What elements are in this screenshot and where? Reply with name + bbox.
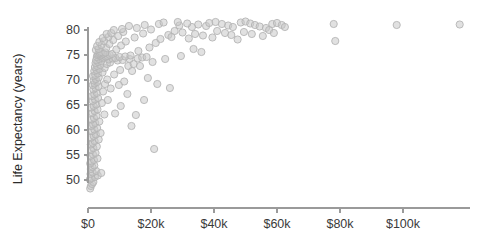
- data-point: [190, 45, 197, 52]
- data-point: [129, 67, 136, 74]
- data-point: [132, 111, 139, 118]
- data-point: [101, 111, 108, 118]
- data-point: [166, 84, 173, 91]
- data-point: [162, 55, 169, 62]
- data-point: [141, 21, 148, 28]
- y-axis-tick-label: 60: [66, 123, 80, 137]
- data-point: [104, 76, 111, 83]
- data-point: [157, 35, 164, 42]
- data-point: [140, 30, 147, 37]
- data-point: [174, 18, 181, 25]
- data-point: [259, 32, 266, 39]
- x-axis-tick-label: $60k: [263, 217, 291, 231]
- data-point: [151, 145, 158, 152]
- data-point: [240, 28, 247, 35]
- data-point: [184, 20, 191, 27]
- x-axis-tick-label: $40k: [200, 217, 228, 231]
- x-axis: $0$20k$40k$60k$80k$100k: [81, 208, 470, 231]
- data-point: [192, 30, 199, 37]
- data-point: [104, 96, 111, 103]
- data-point: [133, 24, 140, 31]
- data-point: [168, 33, 175, 40]
- data-point: [160, 19, 167, 26]
- data-point: [143, 53, 150, 60]
- data-point: [124, 90, 131, 97]
- data-point: [149, 58, 156, 65]
- data-point: [122, 38, 129, 45]
- data-point: [146, 44, 153, 51]
- data-point: [270, 29, 277, 36]
- data-point: [125, 22, 132, 29]
- data-point: [147, 26, 154, 33]
- y-axis-title: Life Expectancy (years): [11, 54, 25, 185]
- data-point: [131, 34, 138, 41]
- data-point: [117, 102, 124, 109]
- data-point: [456, 21, 463, 28]
- data-point: [111, 110, 118, 117]
- y-axis-tick-label: 75: [66, 48, 80, 62]
- data-point: [117, 66, 124, 73]
- data-point: [195, 21, 202, 28]
- data-point: [179, 29, 186, 36]
- data-point: [128, 122, 135, 129]
- y-axis-tick-label: 70: [66, 73, 80, 87]
- y-axis: 50556065707580: [66, 23, 88, 187]
- x-axis-tick-label: $0: [81, 217, 95, 231]
- data-point: [98, 169, 105, 176]
- data-point: [229, 23, 236, 30]
- y-axis-tick-label: 65: [66, 98, 80, 112]
- data-point: [136, 62, 143, 69]
- data-point: [185, 35, 192, 42]
- x-axis-tick-label: $80k: [326, 217, 354, 231]
- scatter-chart: 50556065707580 $0$20k$40k$60k$80k$100k L…: [0, 0, 477, 248]
- data-point: [110, 26, 117, 33]
- x-axis-tick-label: $20k: [137, 217, 165, 231]
- data-point: [234, 36, 241, 43]
- data-point: [214, 27, 221, 34]
- plot-area: 50556065707580 $0$20k$40k$60k$80k$100k L…: [0, 0, 477, 248]
- data-point: [332, 37, 339, 44]
- data-point: [127, 52, 134, 59]
- data-point: [118, 25, 125, 32]
- data-points-layer: [86, 18, 463, 192]
- data-point: [144, 74, 151, 81]
- data-point: [140, 96, 147, 103]
- data-point: [135, 47, 142, 54]
- data-point: [281, 23, 288, 30]
- data-point: [177, 52, 184, 59]
- data-point: [121, 78, 128, 85]
- data-point: [330, 20, 337, 27]
- data-point: [248, 30, 255, 37]
- data-point: [198, 48, 205, 55]
- data-point: [199, 32, 206, 39]
- data-point: [154, 80, 161, 87]
- y-axis-tick-label: 55: [66, 148, 80, 162]
- y-axis-tick-label: 80: [66, 23, 80, 37]
- data-point: [228, 31, 235, 38]
- data-point: [393, 21, 400, 28]
- x-axis-tick-label: $100k: [386, 217, 421, 231]
- y-axis-tick-label: 50: [66, 173, 80, 187]
- data-point: [209, 34, 216, 41]
